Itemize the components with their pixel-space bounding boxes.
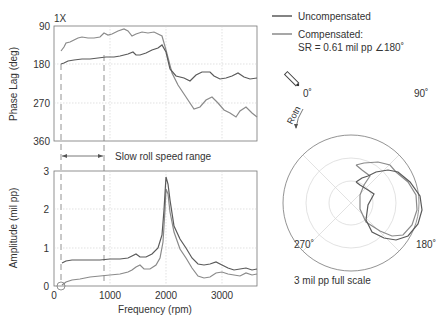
chart-canvas: 1X 90 180 270 360 Phase Lag (deg) Slow r… <box>0 0 445 326</box>
rotation-label: Rotn <box>285 104 303 125</box>
polar-uncompensated-line <box>356 170 422 240</box>
polar-plot: 0˚ 90˚ 180˚ 270˚ Rotn 3 mil pp full scal… <box>283 72 436 286</box>
legend-compensated-sr: SR = 0.61 mil pp ∠180˚ <box>298 42 404 53</box>
amplitude-plot: 0 1 2 3 0 1000 2000 3000 Frequency (rpm)… <box>8 166 257 315</box>
amp-xtick-1000: 1000 <box>99 290 122 301</box>
amp-xlabel: Frequency (rpm) <box>118 304 192 315</box>
phase-ytick-180: 180 <box>33 59 50 70</box>
phase-ytick-360: 360 <box>33 136 50 147</box>
polar-compensated-line <box>356 162 417 236</box>
polar-label-180: 180˚ <box>416 239 436 250</box>
amp-xtick-2000: 2000 <box>155 290 178 301</box>
legend-compensated: Compensated: <box>298 29 363 40</box>
legend: Uncompensated Compensated: SR = 0.61 mil… <box>272 11 404 53</box>
legend-uncompensated: Uncompensated <box>298 11 371 22</box>
polar-scale-label: 3 mil pp full scale <box>294 275 371 286</box>
phase-plot: 1X 90 180 270 360 Phase Lag (deg) <box>8 13 257 147</box>
phase-corner-label: 1X <box>54 13 67 24</box>
amp-uncompensated-line <box>62 177 257 270</box>
amp-ytick-1: 1 <box>43 243 49 254</box>
phase-uncompensated-line <box>61 45 257 81</box>
polar-label-270: 270˚ <box>294 239 314 250</box>
polar-label-90: 90˚ <box>414 88 428 99</box>
polar-label-0: 0˚ <box>303 88 312 99</box>
amp-xtick-3000: 3000 <box>211 290 234 301</box>
slow-roll-label: Slow roll speed range <box>115 151 212 162</box>
amp-compensated-line <box>62 189 257 285</box>
phase-ylabel: Phase Lag (deg) <box>8 47 19 121</box>
slow-roll-range: Slow roll speed range <box>61 55 212 284</box>
phase-ytick-90: 90 <box>39 21 51 32</box>
phase-compensated-line <box>61 29 257 117</box>
amp-ytick-0: 0 <box>43 281 49 292</box>
amp-ytick-3: 3 <box>43 166 49 177</box>
phase-ytick-270: 270 <box>33 98 50 109</box>
amp-xtick-0: 0 <box>51 290 57 301</box>
amp-ylabel: Amplitude (mil pp) <box>8 188 19 269</box>
pencil-icon <box>285 72 301 88</box>
amp-ytick-2: 2 <box>43 204 49 215</box>
